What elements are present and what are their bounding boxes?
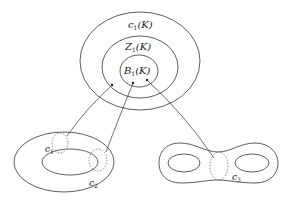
torus-surface: c1 c2 [14, 132, 114, 192]
double-torus-hole-right [235, 154, 269, 172]
line-c3-to-point [147, 80, 214, 158]
label-B1K: B1(K) [123, 65, 151, 77]
line-c1-to-point [67, 85, 112, 136]
double-torus-hole-left [168, 154, 200, 172]
label-Z1K: Z1(K) [124, 41, 151, 53]
diagram-canvas: c1(K) Z1(K) B1(K) c1 c2 c3 [0, 0, 294, 203]
torus-outer [14, 132, 114, 192]
label-c3: c3 [232, 172, 241, 183]
double-torus-surface: c3 [159, 143, 278, 183]
double-torus-outline [159, 143, 278, 183]
label-c1K: c1(K) [128, 19, 153, 31]
label-c2: c2 [89, 178, 98, 189]
